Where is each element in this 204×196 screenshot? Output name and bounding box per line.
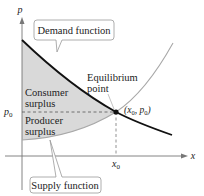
- x0-label: x0: [111, 158, 120, 171]
- supply-function-label: Supply function: [31, 180, 99, 191]
- x-axis-label: x: [190, 150, 196, 161]
- equilibrium-point-marker: [113, 109, 118, 114]
- equilibrium-label-line2: point: [87, 83, 109, 94]
- y-axis-arrow-icon: [20, 17, 25, 24]
- demand-function-callout: Demand function: [34, 20, 114, 52]
- consumer-surplus-label-line1: Consumer: [25, 87, 69, 98]
- equilibrium-leader-line: [108, 94, 114, 109]
- consumer-surplus-label-line2: surplus: [25, 98, 55, 109]
- y-axis-label: p: [17, 4, 23, 15]
- demand-function-label: Demand function: [37, 25, 111, 36]
- surplus-diagram: Demand function Supply function p x p0 x…: [0, 0, 204, 196]
- equilibrium-coordinates: (x0, p0): [124, 105, 151, 116]
- supply-function-callout: Supply function: [30, 140, 101, 193]
- producer-surplus-label-line2: surplus: [25, 126, 55, 137]
- producer-surplus-label-line1: Producer: [25, 115, 63, 126]
- p0-label: p0: [3, 106, 13, 119]
- x-axis-arrow-icon: [181, 154, 188, 159]
- equilibrium-label-line1: Equilibrium: [87, 72, 138, 83]
